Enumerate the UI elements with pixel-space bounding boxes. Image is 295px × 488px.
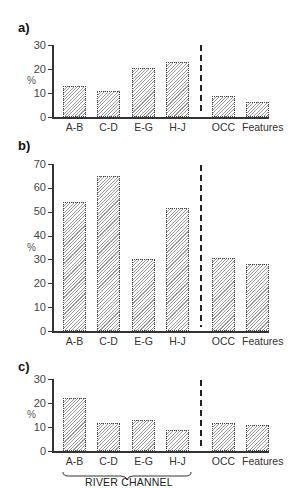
bar-ab <box>63 86 86 117</box>
y-tick-label: 30 <box>24 40 46 51</box>
y-axis-label: % <box>27 75 36 86</box>
bar-features <box>246 102 269 117</box>
y-axis <box>52 45 54 118</box>
bar-cd <box>97 176 120 331</box>
panel-label: c) <box>18 359 30 374</box>
y-tick-label: 20 <box>24 64 46 75</box>
category-label: Features <box>242 455 282 467</box>
y-tick-label: 20 <box>24 278 46 289</box>
x-axis <box>52 451 269 453</box>
y-axis-label: % <box>27 242 36 253</box>
bar-cd <box>97 423 120 451</box>
separator-dashed-line <box>200 380 202 447</box>
y-tick <box>48 283 52 284</box>
y-tick-label: 0 <box>24 446 46 457</box>
y-tick <box>48 45 52 46</box>
y-tick-label: 30 <box>24 254 46 265</box>
bar-hj <box>166 208 189 331</box>
separator-dashed-line <box>200 45 202 113</box>
category-label: C-D <box>89 455 129 467</box>
y-tick-label: 30 <box>24 374 46 385</box>
bar-occ <box>212 423 235 451</box>
y-tick-label: 50 <box>24 206 46 217</box>
y-tick-label: 60 <box>24 182 46 193</box>
category-label: Features <box>242 335 282 347</box>
bar-occ <box>212 258 235 331</box>
group-label: RIVER CHANNEL <box>85 476 173 488</box>
y-tick <box>48 379 52 380</box>
category-label: C-D <box>89 121 129 133</box>
y-axis-label: % <box>27 409 36 420</box>
bar-features <box>246 425 269 451</box>
category-label: Features <box>242 121 282 133</box>
y-tick-label: 40 <box>24 230 46 241</box>
bar-ab <box>63 202 86 331</box>
y-tick <box>48 236 52 237</box>
bar-eg <box>132 259 155 331</box>
panel-label: b) <box>18 138 30 153</box>
category-label: C-D <box>89 335 129 347</box>
y-tick <box>48 259 52 260</box>
y-tick-label: 10 <box>24 422 46 433</box>
category-label: H-J <box>158 455 198 467</box>
y-axis <box>52 379 54 452</box>
y-tick-label: 0 <box>24 326 46 337</box>
bar-ab <box>63 398 86 451</box>
y-tick <box>48 403 52 404</box>
category-label: OCC <box>204 455 244 467</box>
bar-features <box>246 264 269 331</box>
y-tick <box>48 427 52 428</box>
y-tick <box>48 164 52 165</box>
category-label: H-J <box>158 121 198 133</box>
category-label: H-J <box>158 335 198 347</box>
panel-label: a) <box>18 20 30 35</box>
y-tick <box>48 93 52 94</box>
separator-dashed-line <box>200 165 202 327</box>
x-axis <box>52 331 269 333</box>
x-axis <box>52 117 269 119</box>
bar-hj <box>166 430 189 451</box>
y-tick <box>48 307 52 308</box>
y-tick <box>48 117 52 118</box>
bar-eg <box>132 420 155 451</box>
y-tick-label: 10 <box>24 88 46 99</box>
y-tick <box>48 331 52 332</box>
y-tick <box>48 451 52 452</box>
bar-eg <box>132 68 155 117</box>
y-tick <box>48 188 52 189</box>
y-tick-label: 70 <box>24 159 46 170</box>
bar-cd <box>97 91 120 117</box>
y-tick-label: 10 <box>24 302 46 313</box>
category-label: OCC <box>204 121 244 133</box>
y-tick <box>48 69 52 70</box>
y-tick-label: 20 <box>24 398 46 409</box>
category-label: OCC <box>204 335 244 347</box>
bar-hj <box>166 62 189 117</box>
y-tick-label: 0 <box>24 112 46 123</box>
y-axis <box>52 164 54 332</box>
bar-occ <box>212 96 235 117</box>
y-tick <box>48 212 52 213</box>
